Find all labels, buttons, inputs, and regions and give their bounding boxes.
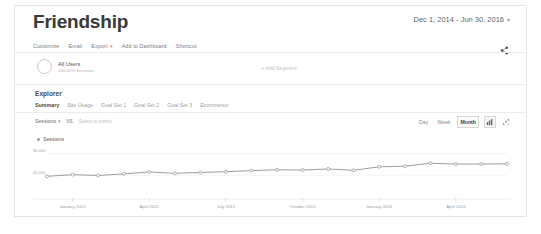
svg-text:October 2015: October 2015	[290, 204, 317, 209]
bar-chart-icon[interactable]	[484, 116, 496, 128]
segment-chip-all-users[interactable]: All Users 100.00% Sessions	[37, 59, 94, 74]
svg-text:July 2015: July 2015	[217, 204, 236, 209]
sessions-line-chart[interactable]: 80,00040,000	[33, 144, 511, 199]
toolbar-label: Add to Dashboard	[122, 43, 167, 49]
primary-metric-dropdown[interactable]: Sessions▾	[35, 118, 61, 124]
report-toolbar: Customize Email Export▾ Add to Dashboard…	[33, 43, 197, 49]
svg-text:January 2016: January 2016	[366, 204, 393, 209]
vs-label: VS.	[66, 119, 74, 124]
svg-text:April 2016: April 2016	[446, 204, 466, 209]
segment-divider	[15, 84, 526, 85]
chevron-down-icon: ▾	[507, 16, 510, 23]
tab-ecommerce[interactable]: Ecommerce	[200, 102, 228, 108]
toolbar-label: Email	[68, 43, 82, 49]
date-range-label: Dec 1, 2014 - Jun 30, 2016	[414, 15, 504, 24]
chart-legend: Sessions	[37, 136, 64, 142]
svg-text:January 2015: January 2015	[60, 204, 87, 209]
segment-subtitle: 100.00% Sessions	[58, 68, 94, 73]
segment-name: All Users	[58, 61, 94, 67]
primary-metric-label: Sessions	[35, 118, 56, 124]
toolbar-item-shortcut[interactable]: Shortcut	[176, 43, 197, 49]
share-icon[interactable]	[500, 41, 509, 50]
svg-text:80,000: 80,000	[33, 148, 46, 153]
chevron-down-icon: ▾	[110, 44, 113, 49]
segment-circle-icon	[37, 59, 52, 74]
tab-summary[interactable]: Summary	[35, 102, 59, 108]
explorer-tabs: Summary Site Usage Goal Set 1 Goal Set 2…	[35, 102, 228, 108]
svg-text:April 2015: April 2015	[140, 204, 160, 209]
analytics-report-panel: Friendship Dec 1, 2014 - Jun 30, 2016▾ C…	[14, 5, 527, 217]
tab-site-usage[interactable]: Site Usage	[67, 102, 93, 108]
tab-goal-set-3[interactable]: Goal Set 3	[167, 102, 192, 108]
segment-texts: All Users 100.00% Sessions	[58, 61, 94, 73]
granularity-month[interactable]: Month	[457, 116, 479, 128]
explorer-heading: Explorer	[35, 90, 62, 97]
metric-selector-row: Sessions▾ VS. Select a metric Day Week M…	[15, 114, 526, 131]
metric-selectors: Sessions▾ VS. Select a metric	[35, 118, 112, 124]
granularity-day[interactable]: Day	[417, 117, 430, 127]
toolbar-label: Export	[91, 43, 107, 49]
granularity-controls: Day Week Month	[417, 116, 510, 128]
tab-goal-set-1[interactable]: Goal Set 1	[101, 102, 126, 108]
legend-dot-icon	[37, 138, 40, 141]
add-segment-button[interactable]: + Add Segment	[261, 65, 297, 71]
legend-label: Sessions	[43, 136, 64, 142]
svg-text:40,000: 40,000	[33, 170, 46, 175]
toolbar-item-customize[interactable]: Customize	[33, 43, 59, 49]
toolbar-item-add-to-dashboard[interactable]: Add to Dashboard	[122, 43, 167, 49]
scatter-plot-icon[interactable]	[501, 118, 510, 127]
report-header: Friendship Dec 1, 2014 - Jun 30, 2016▾	[15, 6, 526, 36]
chart-x-axis: January 2015April 2015July 2015October 2…	[33, 198, 511, 212]
tab-goal-set-2[interactable]: Goal Set 2	[134, 102, 159, 108]
toolbar-label: Customize	[33, 43, 59, 49]
screenshot-root: Friendship Dec 1, 2014 - Jun 30, 2016▾ C…	[0, 0, 541, 234]
toolbar-item-email[interactable]: Email	[68, 43, 82, 49]
secondary-metric-dropdown[interactable]: Select a metric	[79, 118, 112, 124]
tabs-divider	[15, 112, 526, 113]
toolbar-label: Shortcut	[176, 43, 197, 49]
date-range-selector[interactable]: Dec 1, 2014 - Jun 30, 2016▾	[414, 15, 510, 24]
granularity-week[interactable]: Week	[435, 117, 452, 127]
page-title: Friendship	[33, 11, 128, 33]
chevron-down-icon: ▾	[58, 119, 61, 124]
toolbar-item-export[interactable]: Export▾	[91, 43, 112, 49]
segment-bar: All Users 100.00% Sessions + Add Segment	[15, 52, 526, 82]
